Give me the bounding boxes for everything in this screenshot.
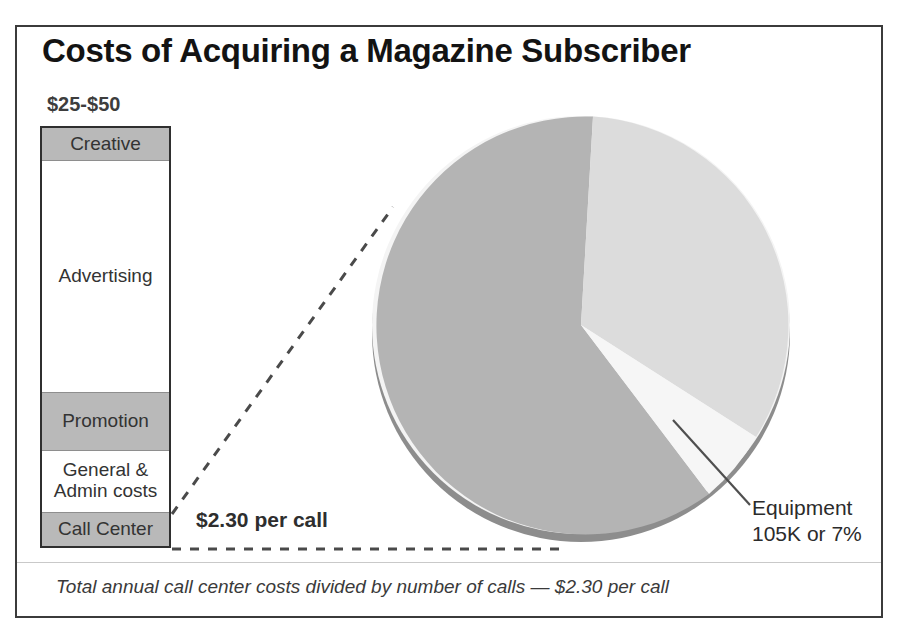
equipment-value: 105K or 7% [752, 521, 862, 547]
pie-chart [360, 90, 810, 570]
equipment-annotation: Equipment 105K or 7% [752, 495, 862, 546]
per-call-annotation: $2.30 per call [196, 508, 328, 532]
footnote-text: Total annual call center costs divided b… [56, 576, 669, 598]
figure-root: Costs of Acquiring a Magazine Subscriber… [0, 0, 903, 633]
equipment-name: Equipment [752, 495, 862, 521]
pie-disc [372, 116, 790, 534]
footnote-divider [17, 562, 881, 563]
